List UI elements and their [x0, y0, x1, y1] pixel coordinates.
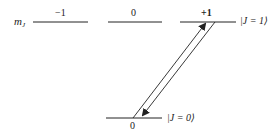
mj-subscript: J	[22, 21, 25, 29]
transition-arrow-down	[143, 22, 215, 115]
transition-arrow-up	[133, 24, 205, 118]
sublevel-label-0-lower: 0	[130, 121, 135, 131]
diagram-svg	[0, 0, 279, 132]
sublevel-label-plus-1: +1	[201, 8, 212, 18]
energy-level-diagram: mJ −1 0 +1 |J = 1⟩ 0 |J = 0⟩	[0, 0, 279, 132]
ket-label-j0: |J = 0⟩	[167, 113, 195, 123]
ket-label-j1: |J = 1⟩	[240, 16, 268, 26]
sublevel-label-minus-1: −1	[55, 8, 66, 18]
sublevel-label-0-upper: 0	[131, 8, 136, 18]
mj-axis-label: mJ	[14, 16, 25, 30]
mj-base: m	[14, 15, 22, 27]
